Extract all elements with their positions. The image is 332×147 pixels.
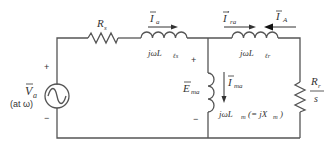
svg-text:a: a: [156, 18, 160, 26]
svg-text:ℓr: ℓr: [264, 52, 271, 59]
circuit-wires: [57, 38, 300, 138]
svg-text:I: I: [227, 76, 233, 88]
stator-leakage-inductor: [141, 32, 187, 38]
arrow-down-icon: [222, 96, 227, 103]
svg-text:ma: ma: [191, 88, 200, 96]
referred-rotor-current-label: I ′ ra: [222, 10, 237, 26]
airgap-emf-label: E ma: [182, 82, 200, 96]
svg-text:(= jX: (= jX: [248, 109, 268, 119]
svg-text:R: R: [96, 17, 104, 29]
svg-text:ra: ra: [230, 18, 237, 26]
svg-text:a: a: [33, 91, 37, 100]
svg-text:r: r: [318, 82, 321, 90]
magnetizing-inductance-label: jωL m (= jX m ): [218, 109, 283, 120]
arrow-left-icon: [264, 24, 273, 31]
svg-text:m: m: [241, 113, 246, 120]
rotor-leakage-inductor: [232, 32, 278, 38]
source-minus-sign: −: [44, 113, 49, 123]
svg-text:I: I: [149, 12, 155, 24]
arrow-right-icon: [249, 25, 256, 30]
svg-text:m: m: [273, 113, 278, 120]
svg-text:): ): [279, 109, 283, 119]
svg-text:I: I: [275, 10, 281, 22]
source-frequency-note: (at ω): [10, 99, 33, 109]
rotor-current-label: I A: [275, 10, 288, 24]
rotor-resistance-label: R r s: [310, 75, 324, 104]
stator-current-label: I a: [149, 12, 160, 26]
svg-text:jωL: jωL: [218, 109, 233, 119]
magnetizing-current-arrow: [222, 72, 227, 103]
rotor-load-resistor: [295, 82, 305, 112]
stator-leakage-label: jωL ℓs: [147, 48, 179, 59]
rotor-leakage-label: jωL ℓr: [239, 48, 271, 59]
emf-plus-sign: +: [191, 55, 196, 65]
stator-resistor: [88, 33, 118, 43]
magnetizing-inductor: [208, 73, 214, 112]
svg-text:jωL: jωL: [239, 48, 254, 58]
stator-resistance-label: R s: [96, 17, 107, 32]
magnetizing-current-label: I ma: [227, 76, 243, 90]
svg-text:ma: ma: [234, 82, 243, 90]
svg-text:s: s: [104, 24, 107, 32]
equivalent-circuit-diagram: + − V a (at ω) R s jωL ℓs I a jωL ℓr I ′: [0, 0, 332, 147]
svg-text:jωL: jωL: [147, 48, 162, 58]
svg-text:ℓs: ℓs: [172, 52, 179, 59]
sine-wave-icon: [48, 89, 66, 104]
stator-current-arrow: [148, 25, 178, 30]
ac-voltage-source: [45, 84, 69, 108]
svg-text:R: R: [310, 75, 318, 87]
source-label: V a: [25, 84, 37, 100]
rotor-current-arrow: [264, 24, 296, 31]
referred-rotor-current-arrow: [224, 25, 256, 30]
arrow-right-icon: [171, 25, 178, 30]
svg-text:′: ′: [227, 10, 229, 19]
svg-text:s: s: [314, 93, 318, 104]
source-plus-sign: +: [44, 62, 49, 72]
emf-minus-sign: −: [193, 114, 198, 124]
svg-text:A: A: [282, 16, 288, 24]
svg-text:E: E: [182, 82, 190, 94]
